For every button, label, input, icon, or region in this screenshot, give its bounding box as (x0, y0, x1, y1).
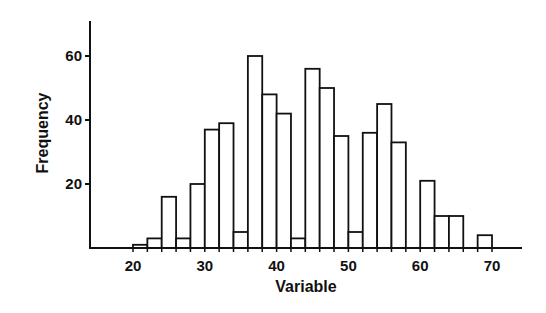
histogram-bar (234, 232, 248, 248)
histogram-bar (291, 238, 305, 248)
histogram-bar (277, 114, 291, 248)
histogram-bar (176, 238, 190, 248)
histogram-bar (334, 136, 348, 248)
histogram-bar (478, 235, 492, 248)
histogram-bar (377, 104, 391, 248)
histogram-bar (147, 238, 161, 248)
x-tick-label: 30 (196, 257, 213, 274)
x-tick-label: 60 (412, 257, 429, 274)
histogram-bar (420, 181, 434, 248)
y-tick-label: 60 (65, 47, 82, 64)
y-tick-label: 20 (65, 175, 82, 192)
histogram-bar (363, 133, 377, 248)
histogram-bar (162, 197, 176, 248)
x-tick-label: 20 (125, 257, 142, 274)
histogram-bar (449, 216, 463, 248)
histogram-bar (391, 142, 405, 248)
histogram-bar (305, 69, 319, 248)
y-axis-title: Frequency (34, 92, 51, 173)
x-tick-label: 50 (340, 257, 357, 274)
histogram-bar (248, 56, 262, 248)
histogram-bar (320, 88, 334, 248)
histogram-bar (190, 184, 204, 248)
y-tick-label: 40 (65, 111, 82, 128)
histogram-bar (435, 216, 449, 248)
histogram-bar (219, 123, 233, 248)
x-tick-label: 70 (484, 257, 501, 274)
histogram-bar (262, 94, 276, 248)
x-axis-title: Variable (275, 278, 336, 295)
histogram-bar (205, 130, 219, 248)
y-axis-ticks: 204060 (65, 47, 90, 192)
histogram-bars (133, 56, 492, 248)
x-axis-ticks: 203040506070 (125, 248, 501, 274)
x-tick-label: 40 (268, 257, 285, 274)
histogram-chart: 203040506070 204060 Variable Frequency (0, 0, 546, 313)
histogram-bar (348, 232, 362, 248)
